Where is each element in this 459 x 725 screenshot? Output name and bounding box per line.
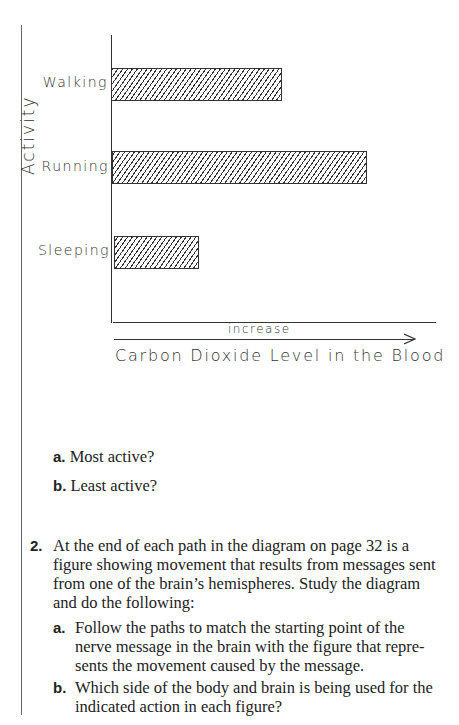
question-1a: a. Most active? — [53, 447, 154, 466]
question-2-text: At the end of each path in the diagram o… — [53, 536, 436, 612]
increase-arrow-line — [114, 339, 414, 340]
question-1a-text: Most active? — [70, 447, 155, 466]
category-label-sleeping: Sleeping — [10, 242, 110, 258]
question-2b-label-wrap: b. — [53, 678, 66, 697]
question-2a-line: Follow the paths to match the starting p… — [75, 618, 436, 637]
question-2a-text: Follow the paths to match the starting p… — [75, 618, 436, 675]
question-2b-text: Which side of the body and brain is bein… — [75, 678, 436, 716]
question-1b-text: Least active? — [70, 476, 157, 495]
category-label-walking: Walking — [8, 74, 108, 90]
question-1b: b. Least active? — [53, 476, 157, 495]
question-2-line: figure showing movement that results fro… — [53, 555, 436, 574]
y-axis — [111, 35, 112, 323]
question-2a-line: nerve message in the brain with the figu… — [75, 637, 436, 656]
question-1a-label: a. — [53, 448, 66, 465]
x-axis-label: Carbon Dioxide Level in the Blood — [115, 346, 445, 365]
bar-running — [112, 151, 367, 184]
question-2-line: and do the following: — [53, 593, 436, 612]
question-2-line: At the end of each path in the diagram o… — [53, 536, 436, 555]
co2-activity-bar-chart: Activity Walking Running Sleeping increa… — [0, 0, 459, 400]
question-2-number: 2. — [30, 536, 43, 555]
bar-walking — [111, 68, 282, 101]
category-label-running: Running — [9, 158, 109, 174]
question-2a-line: sents the movement caused by the message… — [75, 656, 436, 675]
question-1b-label: b. — [53, 477, 66, 494]
question-2b-label: b. — [53, 679, 66, 696]
bar-sleeping — [114, 236, 199, 269]
question-2-label: 2. — [30, 537, 43, 554]
question-2a-label-wrap: a. — [53, 618, 66, 637]
question-2a-label: a. — [53, 619, 66, 636]
increase-annotation: increase — [228, 322, 291, 336]
question-2b-line: indicated action in each figure? — [75, 697, 436, 716]
question-2b-line: Which side of the body and brain is bein… — [75, 678, 436, 697]
arrow-right-icon — [404, 333, 416, 345]
question-2-line: from one of the brain’s hemispheres. Stu… — [53, 574, 436, 593]
